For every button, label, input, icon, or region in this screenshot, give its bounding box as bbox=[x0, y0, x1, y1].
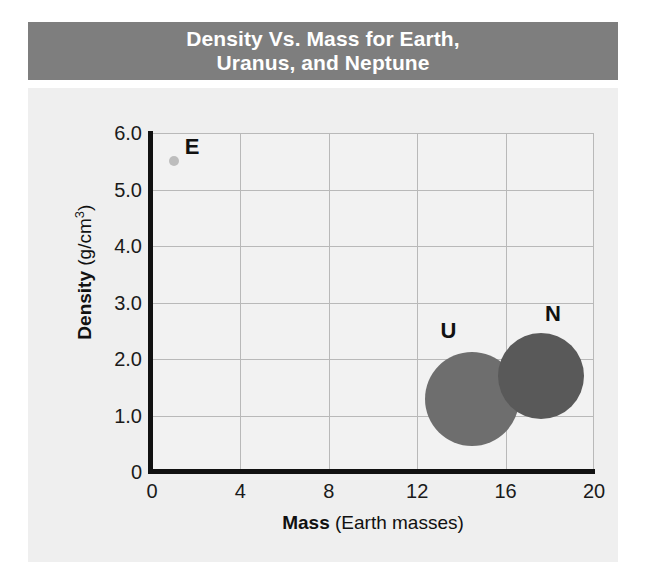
chart-panel: EUN 01.02.03.04.05.06.0 048121620 Densit… bbox=[28, 88, 618, 562]
x-tick-label: 0 bbox=[127, 480, 177, 503]
data-label-earth: E bbox=[185, 134, 200, 160]
x-tick-label: 8 bbox=[304, 480, 354, 503]
y-axis-line bbox=[148, 131, 153, 474]
y-axis-title-rest: (g/cm3) bbox=[74, 205, 95, 271]
x-axis-title: Mass (Earth masses) bbox=[152, 512, 594, 534]
x-tick-label: 4 bbox=[215, 480, 265, 503]
chart-title-banner: Density Vs. Mass for Earth, Uranus, and … bbox=[28, 22, 618, 80]
data-bubble-neptune bbox=[498, 333, 584, 419]
chart-figure: Density Vs. Mass for Earth, Uranus, and … bbox=[0, 0, 645, 588]
plot-area: EUN bbox=[152, 133, 594, 472]
x-axis-tick-labels: 048121620 bbox=[152, 480, 594, 508]
data-label-neptune: N bbox=[545, 301, 561, 327]
gridline-horizontal bbox=[152, 190, 594, 191]
x-tick-label: 20 bbox=[569, 480, 619, 503]
data-label-uranus: U bbox=[440, 318, 456, 344]
gridline-horizontal bbox=[152, 133, 594, 134]
x-tick-label: 16 bbox=[481, 480, 531, 503]
y-tick-label: 1.0 bbox=[82, 404, 142, 427]
x-tick-label: 12 bbox=[392, 480, 442, 503]
x-axis-title-rest: (Earth masses) bbox=[330, 512, 464, 533]
y-axis-title-bold: Density bbox=[74, 271, 95, 340]
x-axis-title-bold: Mass bbox=[282, 512, 330, 533]
gridline-horizontal bbox=[152, 303, 594, 304]
y-axis-title: Density (g/cm3) bbox=[72, 142, 96, 402]
y-tick-label: 6.0 bbox=[82, 122, 142, 145]
gridline-horizontal bbox=[152, 246, 594, 247]
page-title: Density Vs. Mass for Earth, Uranus, and … bbox=[186, 27, 459, 75]
x-axis-line bbox=[148, 469, 595, 474]
